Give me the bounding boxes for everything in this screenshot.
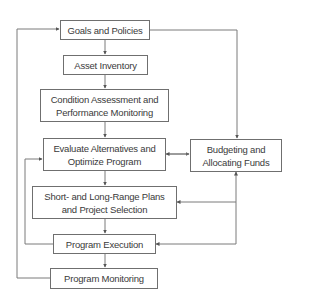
node-budgeting-allocating-funds: Budgeting and Allocating Funds — [190, 139, 282, 172]
node-label-line-1: Short- and Long-Range Plans — [44, 190, 164, 203]
node-label: Program Monitoring — [64, 272, 144, 285]
node-label-line-1: Condition Assessment and — [51, 93, 159, 106]
node-label-line-2: Performance Monitoring — [56, 106, 153, 119]
node-label-line-2: and Project Selection — [62, 203, 148, 216]
node-label: Goals and Policies — [67, 24, 142, 37]
node-label-line-1: Budgeting and — [207, 143, 266, 156]
node-program-monitoring: Program Monitoring — [50, 268, 158, 289]
node-condition-assessment: Condition Assessment and Performance Mon… — [40, 89, 169, 122]
node-label-line-2: Optimize Program — [68, 155, 141, 168]
node-asset-inventory: Asset Inventory — [63, 55, 148, 75]
node-label-line-2: Allocating Funds — [202, 156, 269, 169]
node-label: Asset Inventory — [74, 59, 136, 72]
node-evaluate-alternatives: Evaluate Alternatives and Optimize Progr… — [43, 138, 166, 171]
node-goals-and-policies: Goals and Policies — [60, 20, 150, 40]
node-label-line-1: Evaluate Alternatives and — [53, 142, 155, 155]
node-program-execution: Program Execution — [53, 234, 156, 254]
node-short-long-range-plans: Short- and Long-Range Plans and Project … — [32, 186, 177, 219]
node-label: Program Execution — [66, 238, 143, 251]
